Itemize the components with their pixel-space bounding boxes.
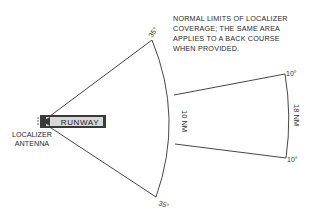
coverage-note: NORMAL LIMITS OF LOCALIZER COVERAGE; THE… xyxy=(173,14,309,54)
note-line: NORMAL LIMITS OF LOCALIZER xyxy=(173,14,309,24)
lower-10-degree-label: 10° xyxy=(287,156,298,163)
antenna-label-line: ANTENNA xyxy=(4,139,60,148)
antenna-label-line: LOCALIZER xyxy=(4,130,60,139)
runway-label: RUNWAY xyxy=(61,118,99,127)
ten-nm-label: 10 NM xyxy=(180,110,189,132)
upper-35-degree-label: 35° xyxy=(147,26,159,39)
note-line: COVERAGE; THE SAME AREA xyxy=(173,24,309,34)
upper-10-degree-label: 10° xyxy=(286,70,297,77)
upper-35-degree-boundary xyxy=(42,40,152,122)
eighteen-nm-arc xyxy=(285,74,289,158)
antenna-marker xyxy=(37,117,38,124)
eighteen-nm-label: 18 NM xyxy=(292,104,301,126)
note-line: WHEN PROVIDED. xyxy=(173,44,309,54)
upper-10-degree-boundary xyxy=(174,74,285,95)
lower-35-degree-label: 35° xyxy=(158,199,171,209)
localizer-antenna-label: LOCALIZER ANTENNA xyxy=(4,130,60,148)
lower-10-degree-boundary xyxy=(175,144,286,158)
ten-nm-arc xyxy=(152,40,169,197)
note-line: APPLIES TO A BACK COURSE xyxy=(173,34,309,44)
